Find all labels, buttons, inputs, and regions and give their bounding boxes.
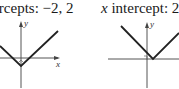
left-y-arrow-icon — [19, 21, 23, 27]
left-v-graph — [0, 31, 58, 66]
right-v-graph — [121, 26, 179, 59]
graphs: y x y — [0, 0, 179, 89]
left-x-label: x — [55, 59, 60, 69]
graph-left: y x — [0, 18, 60, 88]
graph-right: y — [108, 19, 179, 88]
right-y-arrow-icon — [145, 22, 149, 28]
right-y-label: y — [149, 19, 154, 29]
left-y-label: y — [23, 18, 28, 28]
